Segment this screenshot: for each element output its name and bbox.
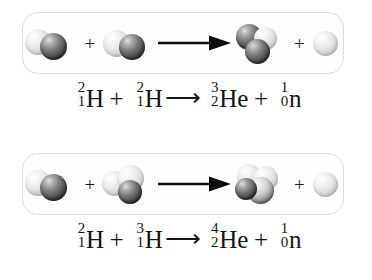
plus-operator: +	[248, 86, 273, 111]
atomic-number: 1	[136, 94, 144, 109]
equation-deuterium-tritium: 21H+31H⟶42He+10n	[0, 223, 372, 252]
atomic-number: 2	[211, 94, 219, 109]
deuterium-nucleus-1b	[101, 12, 157, 74]
neutron-sphere	[235, 178, 257, 200]
yields-arrow: ⟶	[163, 85, 204, 110]
isotope-helium-3: 32He	[204, 82, 249, 111]
plus-operator: +	[104, 86, 129, 111]
element-symbol: H	[145, 86, 163, 111]
neutron-sphere	[313, 31, 338, 56]
plus-symbol-1a: +	[79, 12, 101, 74]
nuclei-strip-1: +	[23, 13, 343, 73]
atomic-number: 1	[78, 94, 86, 109]
helium-3-nucleus	[233, 12, 289, 74]
particle-symbol: n	[289, 86, 302, 111]
neutron-sphere	[245, 39, 270, 64]
element-symbol: H	[86, 86, 104, 111]
arrow-icon	[157, 175, 233, 193]
plus-glyph: +	[84, 34, 95, 53]
reaction-arrow-2	[157, 153, 233, 215]
plus-glyph: +	[294, 175, 305, 194]
atomic-number: 0	[281, 94, 289, 109]
neutron-sphere	[118, 180, 142, 204]
isotope-hydrogen-2: 21H	[71, 82, 105, 111]
yields-arrow: ⟶	[163, 226, 204, 251]
plus-operator: +	[248, 227, 273, 252]
isotope-hydrogen-2: 21H	[71, 223, 105, 252]
fusion-reaction-figure: +	[0, 0, 372, 280]
deuterium-nucleus-1a	[23, 12, 79, 74]
element-symbol: He	[219, 86, 248, 111]
nuclei-strip-2: +	[23, 154, 343, 214]
neutron-particle-2	[310, 153, 343, 215]
plus-symbol-2a: +	[79, 153, 101, 215]
plus-glyph: +	[294, 34, 305, 53]
nuclei-diagram-box-2: +	[22, 153, 344, 215]
isotope-hydrogen-2: 21H	[129, 82, 163, 111]
arrow-icon	[157, 34, 233, 52]
isotope-helium-4: 42He	[204, 223, 249, 252]
particle-symbol: n	[289, 227, 302, 252]
atomic-number: 2	[211, 235, 219, 250]
helium-4-nucleus	[233, 153, 289, 215]
neutron-sphere	[40, 33, 67, 60]
neutron-particle-1	[310, 12, 343, 74]
deuterium-nucleus-2a	[23, 153, 79, 215]
tritium-nucleus	[101, 153, 157, 215]
equation-deuterium-deuterium: 21H+21H⟶32He+10n	[0, 82, 372, 111]
plus-glyph: +	[84, 175, 95, 194]
element-symbol: He	[219, 227, 248, 252]
isotope-hydrogen-3: 31H	[129, 223, 163, 252]
reaction-arrow-1	[157, 12, 233, 74]
isotope-neutron: 10n	[274, 82, 302, 111]
atomic-number: 1	[78, 235, 86, 250]
plus-symbol-1b: +	[289, 12, 311, 74]
atomic-number: 0	[281, 235, 289, 250]
atomic-number: 1	[136, 235, 144, 250]
neutron-sphere	[119, 34, 145, 60]
element-symbol: H	[145, 227, 163, 252]
plus-symbol-2b: +	[289, 153, 311, 215]
neutron-sphere	[40, 174, 67, 201]
plus-operator: +	[104, 227, 129, 252]
isotope-neutron: 10n	[274, 223, 302, 252]
element-symbol: H	[86, 227, 104, 252]
neutron-sphere	[313, 172, 338, 197]
nuclei-diagram-box-1: +	[22, 12, 344, 74]
